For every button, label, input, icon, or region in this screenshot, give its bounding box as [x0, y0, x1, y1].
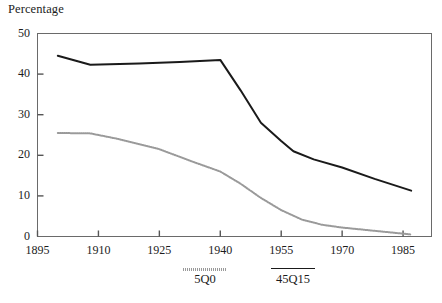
series-line-5q0	[58, 133, 411, 235]
y-axis-tick-marks	[38, 74, 44, 196]
x-axis-tick-label: 1985	[380, 243, 426, 258]
legend-label: 45Q15	[253, 272, 333, 287]
x-axis-tick-marks	[38, 231, 404, 237]
x-axis-tick-label: 1925	[136, 243, 182, 258]
legend-swatch-solid-icon	[271, 268, 315, 271]
y-axis-tick-label: 20	[4, 147, 30, 162]
series-line-45q15	[58, 56, 411, 191]
y-axis-tick-label: 50	[4, 26, 30, 41]
x-axis-tick-label: 1910	[75, 243, 121, 258]
y-axis-tick-label: 40	[4, 66, 30, 81]
legend-label: 5Q0	[165, 272, 245, 287]
x-axis-tick-label: 1955	[258, 243, 304, 258]
y-axis-tick-label: 0	[4, 229, 30, 244]
chart-container: Percentage 50403020100 18951910192519401…	[0, 0, 442, 303]
x-axis-tick-label: 1940	[197, 243, 243, 258]
y-axis-tick-label: 10	[4, 188, 30, 203]
legend-item-5q0[interactable]: 5Q0	[165, 268, 245, 287]
y-axis-tick-label: 30	[4, 107, 30, 122]
x-axis-tick-label: 1970	[319, 243, 365, 258]
data-series-layer	[58, 56, 411, 235]
legend-swatch-dotted-icon	[183, 268, 227, 271]
x-axis-tick-label: 1895	[15, 243, 61, 258]
legend-item-45q15[interactable]: 45Q15	[253, 268, 333, 287]
